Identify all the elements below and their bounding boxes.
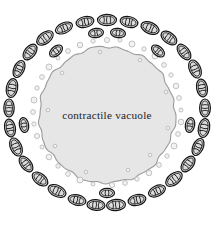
- diagram-canvas: contractile vacuole: [0, 0, 214, 230]
- vesicle: [53, 144, 57, 148]
- vesicle: [34, 133, 39, 138]
- vesicle: [157, 163, 162, 168]
- vesicle: [31, 110, 36, 115]
- vesicle: [46, 64, 52, 70]
- contractile-vacuole-figure: contractile vacuole: [0, 0, 214, 230]
- vesicle: [77, 177, 83, 183]
- vesicle: [32, 122, 36, 126]
- vesicle: [35, 86, 39, 90]
- vesicle: [162, 63, 167, 68]
- vesicle: [66, 172, 71, 177]
- vesicle: [91, 182, 95, 186]
- vesicle: [142, 47, 146, 51]
- vesicle: [177, 96, 182, 101]
- vesicle: [40, 75, 45, 80]
- vesicle: [164, 90, 168, 94]
- vesicle: [126, 168, 130, 172]
- vesicle: [179, 108, 183, 112]
- vesicle: [31, 97, 37, 103]
- vesicle: [40, 145, 44, 149]
- vesicle: [135, 177, 139, 181]
- vesicle: [166, 126, 170, 130]
- vesicle: [171, 143, 177, 149]
- mitochondrion: [200, 99, 211, 117]
- vesicle: [169, 73, 173, 77]
- vesicle: [165, 154, 169, 158]
- vesicle: [91, 39, 95, 43]
- vesicle: [148, 153, 152, 157]
- vesicle: [173, 83, 179, 89]
- vesicle: [123, 181, 128, 186]
- vesicle: [56, 164, 60, 168]
- vesicle: [98, 50, 102, 54]
- mitochondrion: [100, 188, 115, 197]
- vesicle: [138, 58, 142, 62]
- vesicle: [60, 71, 64, 75]
- mitochondrion: [4, 99, 14, 117]
- vesicle: [178, 119, 184, 125]
- vesicle: [46, 108, 50, 112]
- vesicle: [84, 170, 88, 174]
- vesicle: [66, 49, 71, 54]
- vesicle: [46, 154, 52, 160]
- vacuole-label: contractile vacuole: [62, 109, 152, 121]
- vesicle: [146, 170, 152, 176]
- vesicle: [176, 132, 181, 137]
- mitochondrion: [98, 14, 117, 25]
- vesicle: [104, 37, 109, 42]
- vesicle: [77, 42, 83, 48]
- vesicle: [118, 38, 122, 42]
- vesicle: [129, 41, 135, 47]
- vesicle: [109, 182, 114, 187]
